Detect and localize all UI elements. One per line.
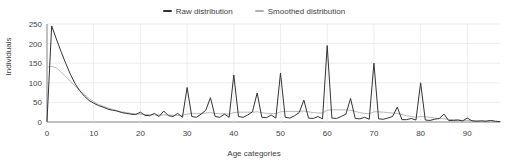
y-tick-label: 50: [33, 98, 42, 107]
series-line-smoothed-distribution: [47, 66, 500, 121]
x-tick-label: 60: [323, 129, 332, 138]
plot-area: 0501001502002500102030405060708090: [0, 0, 508, 167]
x-tick-label: 80: [416, 129, 425, 138]
y-tick-label: 200: [29, 40, 43, 49]
x-tick-label: 30: [183, 129, 192, 138]
x-tick-label: 90: [463, 129, 472, 138]
x-tick-label: 70: [369, 129, 378, 138]
x-tick-label: 40: [229, 129, 238, 138]
x-axis-title: Age categories: [0, 149, 508, 158]
chart-container: Raw distribution Smoothed distribution 0…: [0, 0, 508, 167]
x-tick-label: 10: [89, 129, 98, 138]
x-tick-label: 0: [45, 129, 50, 138]
x-tick-label: 20: [136, 129, 145, 138]
y-axis-title: Individuals: [4, 29, 13, 85]
series-line-raw-distribution: [47, 26, 500, 122]
y-tick-label: 150: [29, 59, 43, 68]
y-tick-label: 0: [38, 118, 43, 127]
y-tick-label: 250: [29, 20, 43, 29]
y-tick-label: 100: [29, 79, 43, 88]
x-tick-label: 50: [276, 129, 285, 138]
